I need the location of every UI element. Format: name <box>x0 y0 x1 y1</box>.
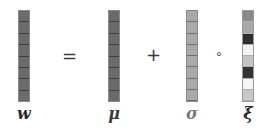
vector-cell <box>187 56 197 67</box>
vector-cell <box>109 34 119 45</box>
vector-cell <box>243 90 253 101</box>
vector-xi <box>242 10 254 102</box>
vector-cell <box>243 11 253 22</box>
hadamard-product-sign: ∘ <box>215 48 223 60</box>
vector-cell <box>187 22 197 33</box>
vector-cell <box>109 22 119 33</box>
vector-cell <box>19 22 29 33</box>
vector-cell <box>19 79 29 90</box>
vector-cell <box>243 22 253 33</box>
vector-cell <box>187 34 197 45</box>
vector-cell <box>187 67 197 78</box>
vector-cell <box>243 34 253 45</box>
vector-cell <box>187 45 197 56</box>
vector-cell <box>109 68 119 79</box>
vector-w <box>18 10 30 102</box>
label-mu: μ <box>102 106 126 122</box>
vector-cell <box>187 79 197 90</box>
vector-cell <box>187 11 197 22</box>
vector-cell <box>243 56 253 67</box>
equals-sign: = <box>62 47 77 65</box>
label-xi: ξ <box>236 106 260 122</box>
vector-cell <box>109 45 119 56</box>
vector-cell <box>243 79 253 90</box>
label-sigma: σ <box>180 106 204 122</box>
vector-cell <box>19 34 29 45</box>
vector-cell <box>109 91 119 101</box>
vector-cell <box>19 11 29 22</box>
vector-cell <box>19 91 29 101</box>
vector-cell <box>19 57 29 68</box>
vector-cell <box>109 79 119 90</box>
vector-cell <box>187 90 197 101</box>
vector-cell <box>243 45 253 56</box>
vector-cell <box>19 68 29 79</box>
vector-cell <box>19 45 29 56</box>
vector-mu <box>108 10 120 102</box>
label-w: w <box>12 106 36 122</box>
plus-sign: + <box>146 46 161 64</box>
vector-cell <box>243 67 253 78</box>
vector-sigma <box>186 10 198 102</box>
vector-cell <box>109 11 119 22</box>
vector-cell <box>109 57 119 68</box>
